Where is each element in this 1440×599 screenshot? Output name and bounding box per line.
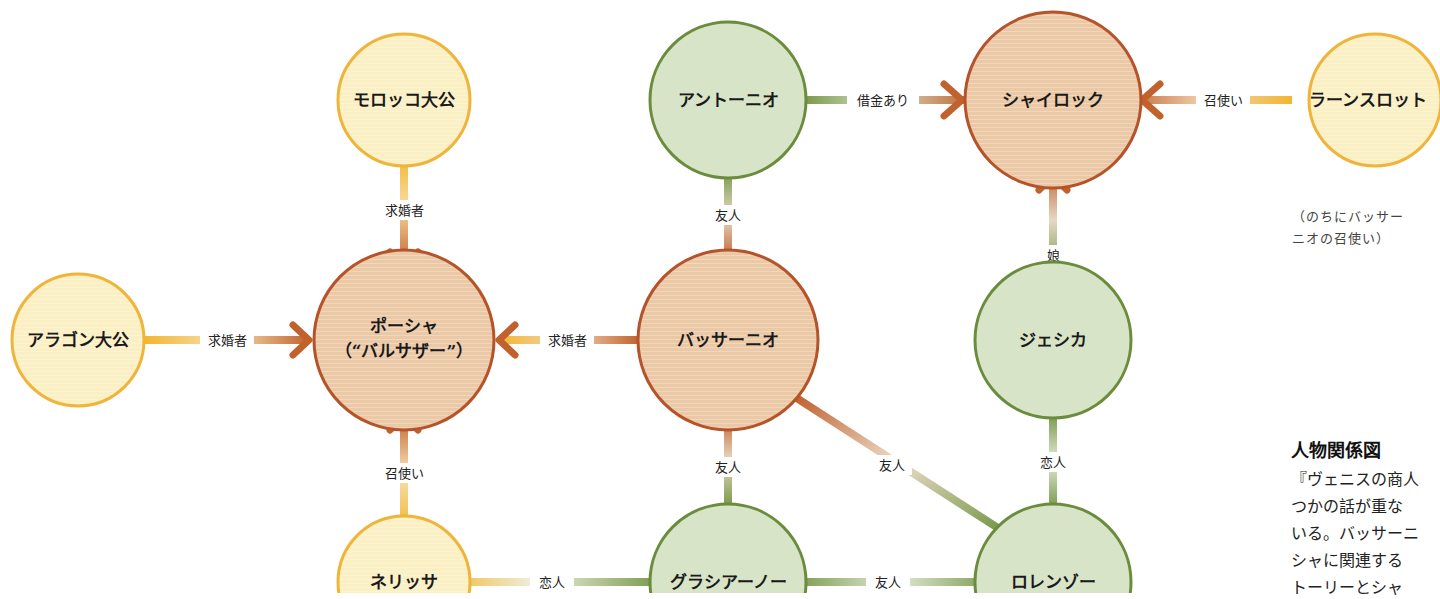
- edge-label-launcelot-shylock: 召使い: [1196, 90, 1250, 110]
- edge-label-bassanio-gratiano: 友人: [708, 457, 748, 477]
- edge-label-jessica-lorenzo: 恋人: [1033, 452, 1073, 472]
- edge-label-antonio-bassanio: 友人: [708, 205, 748, 225]
- edge-label-bassanio-portia: 求婚者: [540, 330, 594, 350]
- svg-text:友人: 友人: [879, 458, 905, 473]
- svg-text:（“バルサザー”）: （“バルサザー”）: [335, 341, 474, 361]
- svg-text:グラシアーノー: グラシアーノー: [670, 572, 787, 592]
- svg-text:友人: 友人: [875, 575, 901, 590]
- node-jessica[interactable]: ジェシカ: [975, 262, 1131, 418]
- node-aragon[interactable]: アラゴン大公: [12, 274, 144, 406]
- svg-text:借金あり: 借金あり: [857, 93, 909, 108]
- node-bassanio[interactable]: バッサーニオ: [638, 250, 818, 430]
- node-antonio[interactable]: アントーニオ: [650, 22, 806, 178]
- caption-title: 人物関係図: [1291, 436, 1440, 462]
- svg-text:アラゴン大公: アラゴン大公: [27, 330, 129, 350]
- svg-text:友人: 友人: [715, 208, 741, 223]
- node-shylock[interactable]: シャイロック: [965, 12, 1141, 188]
- svg-text:モロッコ大公: モロッコ大公: [353, 90, 455, 110]
- edge-label-nerissa-gratiano: 恋人: [530, 572, 574, 592]
- svg-text:ネリッサ: ネリッサ: [370, 572, 438, 592]
- edge-label-nerissa-portia: 召使い: [382, 463, 426, 483]
- svg-text:ラーンスロット: ラーンスロット: [1309, 90, 1427, 110]
- svg-text:ポーシャ: ポーシャ: [370, 316, 438, 336]
- edge-label-bassanio-lorenzo: 友人: [872, 455, 912, 475]
- svg-text:アントーニオ: アントーニオ: [678, 90, 779, 110]
- svg-text:求婚者: 求婚者: [385, 203, 424, 218]
- caption-body: 『ヴェニスの商人 つかの話が重な いる。バッサーニ シャに関連する トーリーとシ…: [1291, 466, 1440, 599]
- svg-text:友人: 友人: [715, 460, 741, 475]
- edge-label-antonio-shylock: 借金あり: [847, 90, 919, 110]
- node-gratiano[interactable]: グラシアーノー: [650, 504, 806, 593]
- edge-label-gratiano-lorenzo: 友人: [866, 572, 910, 592]
- svg-text:バッサーニオ: バッサーニオ: [677, 330, 779, 350]
- node-morocco[interactable]: モロッコ大公: [338, 34, 470, 166]
- svg-text:召使い: 召使い: [1204, 93, 1243, 108]
- svg-text:召使い: 召使い: [385, 466, 424, 481]
- node-launcelot[interactable]: ラーンスロット: [1309, 34, 1440, 166]
- edge-label-aragon-portia: 求婚者: [200, 330, 254, 350]
- svg-text:求婚者: 求婚者: [548, 333, 587, 348]
- svg-text:恋人: 恋人: [1040, 455, 1066, 470]
- svg-text:求婚者: 求婚者: [208, 333, 247, 348]
- svg-text:ジェシカ: ジェシカ: [1019, 330, 1087, 350]
- node-lorenzo[interactable]: ロレンゾー: [975, 504, 1131, 593]
- node-nerissa[interactable]: ネリッサ: [338, 516, 470, 593]
- caption: 人物関係図 『ヴェニスの商人 つかの話が重な いる。バッサーニ シャに関連する …: [1291, 436, 1440, 599]
- svg-text:シャイロック: シャイロック: [1002, 90, 1104, 110]
- svg-text:ロレンゾー: ロレンゾー: [1011, 572, 1096, 592]
- launcelot-note: （のちにバッサー ニオの召使い）: [1292, 206, 1404, 250]
- edge-label-morocco-portia: 求婚者: [382, 200, 426, 220]
- svg-text:恋人: 恋人: [539, 575, 565, 590]
- node-portia[interactable]: ポーシャ （“バルサザー”）: [314, 250, 494, 430]
